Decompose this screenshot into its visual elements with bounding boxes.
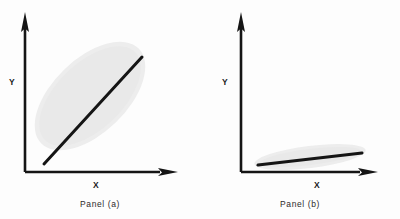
panel-b-x-axis-label: X: [314, 181, 320, 190]
panel-a-x-axis-label: X: [93, 181, 99, 190]
panel-b-y-axis-label: Y: [222, 78, 228, 87]
panel-b-x-axis: [241, 168, 378, 176]
panel-b: Y X Panel (b): [200, 0, 400, 219]
panel-b-y-axis: [237, 12, 245, 172]
panel-a-x-axis: [25, 168, 178, 176]
panel-a-caption: Panel (a): [0, 200, 200, 209]
panel-b-caption: Panel (b): [200, 200, 400, 209]
panel-a-plot: [0, 0, 200, 219]
panel-a-y-axis-label: Y: [9, 78, 15, 87]
panel-b-scatter-cloud: [253, 139, 367, 174]
panel-a-y-axis: [21, 12, 29, 172]
panel-b-plot: [200, 0, 400, 219]
panel-a-scatter-cloud: [15, 22, 164, 170]
panel-a: Y X Panel (a): [0, 0, 200, 219]
figure-root: Y X Panel (a) Y X Panel (: [0, 0, 400, 219]
